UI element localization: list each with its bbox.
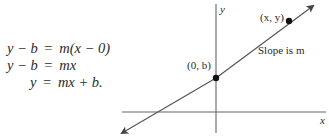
slope-label: Slope is m (258, 45, 304, 56)
y-axis-label: y (220, 4, 225, 15)
slope-line-lower (122, 78, 216, 133)
point-intercept (213, 75, 219, 81)
point-intercept-label: (0, b) (187, 60, 211, 71)
point-general-label: (x, y) (260, 12, 284, 23)
x-axis-label: x (320, 115, 325, 126)
point-general (286, 18, 292, 24)
